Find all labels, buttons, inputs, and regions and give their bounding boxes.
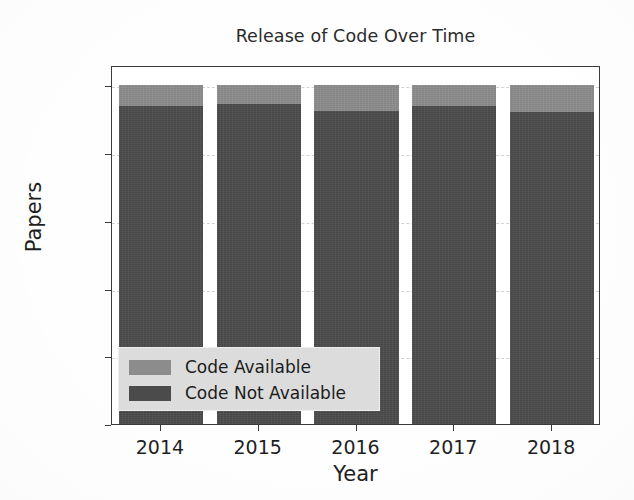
chart-title: Release of Code Over Time — [111, 26, 600, 46]
bar-segment — [314, 85, 398, 110]
bar-segment — [510, 112, 594, 424]
bar-segment — [412, 106, 496, 424]
y-axis-label: Papers — [22, 127, 46, 307]
x-tick-mark — [453, 425, 454, 431]
legend-swatch-code-available — [129, 360, 171, 375]
legend-swatch-code-not-available — [129, 386, 171, 401]
x-tick-mark — [258, 425, 259, 431]
legend-item: Code Not Available — [129, 381, 369, 405]
x-tick-mark — [356, 425, 357, 431]
legend-label-code-available: Code Available — [185, 357, 311, 377]
bar-segment — [412, 85, 496, 105]
bar-stack — [412, 66, 496, 424]
x-tick-mark — [160, 425, 161, 431]
x-tick-label: 2016 — [306, 436, 406, 458]
bar-segment — [217, 85, 301, 104]
chart-legend: Code Available Code Not Available — [118, 347, 380, 411]
legend-item: Code Available — [129, 355, 369, 379]
x-tick-label: 2018 — [501, 436, 601, 458]
bar-segment — [119, 85, 203, 105]
x-tick-label: 2014 — [110, 436, 210, 458]
bar-stack — [510, 66, 594, 424]
x-axis-label: Year — [111, 462, 600, 486]
bar-segment — [510, 85, 594, 112]
chart-figure: Release of Code Over Time Papers Year 02… — [0, 0, 634, 500]
legend-label-code-not-available: Code Not Available — [185, 383, 346, 403]
x-tick-label: 2017 — [403, 436, 503, 458]
y-tick-mark — [105, 425, 111, 426]
x-tick-label: 2015 — [208, 436, 308, 458]
x-tick-mark — [551, 425, 552, 431]
